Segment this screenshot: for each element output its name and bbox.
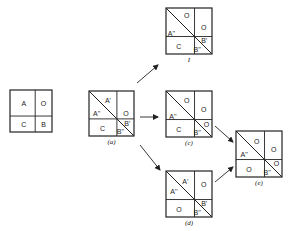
panel-caption: (e) <box>255 179 263 187</box>
region-label: O <box>184 12 190 19</box>
panels: AOCBA'A''OCB'B''(a)OOA''CB'B''IOOA''COB'… <box>10 8 282 227</box>
panel-d: A'A''OOB'B''(d) <box>166 171 212 227</box>
region-label: O <box>201 181 207 188</box>
arrow-icon <box>140 145 160 170</box>
region-label: O <box>201 24 207 31</box>
arrow-icon <box>137 65 158 83</box>
region-label: A' <box>182 178 188 185</box>
region-label: O <box>246 166 252 173</box>
region-label: A'' <box>170 188 177 195</box>
region-label: B'' <box>117 128 124 135</box>
region-label: O <box>201 106 207 113</box>
region-label: C <box>176 43 181 50</box>
arrow-icon <box>215 167 233 182</box>
region-label: B' <box>124 120 130 127</box>
panel-caption: (a) <box>107 138 116 146</box>
region-label: O <box>271 146 277 153</box>
region-label: A'' <box>168 30 175 37</box>
region-label: B'' <box>194 129 201 136</box>
region-label: B'' <box>194 209 201 216</box>
diagram-canvas: AOCBA'A''OCB'B''(a)OOA''CB'B''IOOA''COB'… <box>0 0 298 231</box>
region-label: B <box>41 121 46 128</box>
region-label: C <box>21 121 26 128</box>
region-label: C <box>100 125 105 132</box>
region-label: O <box>41 100 47 107</box>
region-label: O <box>123 110 129 117</box>
arrow-icon <box>215 126 233 142</box>
region-label: O <box>274 160 280 167</box>
panel-caption: (c) <box>185 139 193 147</box>
region-label: A <box>22 100 27 107</box>
arrows <box>137 65 233 182</box>
region-label: B' <box>201 37 207 44</box>
region-label: A'' <box>169 113 176 120</box>
panel-a: A'A''OCB'B''(a) <box>89 91 134 146</box>
region-label: B' <box>201 200 207 207</box>
region-label: C <box>176 126 181 133</box>
region-label: O <box>184 97 190 104</box>
region-label: O <box>176 206 182 213</box>
region-label: O <box>204 121 210 128</box>
region-label: A' <box>105 97 111 104</box>
region-label: A'' <box>93 110 100 117</box>
panel-I: OOA''CB'B''I <box>166 8 212 64</box>
panel-e: OOA''OOB''(e) <box>236 131 282 187</box>
region-label: B'' <box>194 46 201 53</box>
region-label: B'' <box>264 169 271 176</box>
panel-initial: AOCB <box>10 90 52 132</box>
region-label: O <box>254 138 260 145</box>
panel-caption: I <box>187 56 191 64</box>
panel-c: OOA''COB''(c) <box>166 91 212 147</box>
region-label: A'' <box>241 151 248 158</box>
panel-caption: (d) <box>185 219 194 227</box>
